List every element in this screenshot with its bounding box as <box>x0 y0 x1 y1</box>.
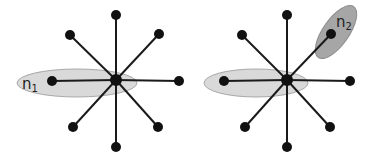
edge-right-3 <box>287 80 330 127</box>
leaf-node-left-2 <box>174 76 184 86</box>
leaf-node-left-5 <box>68 122 78 132</box>
leaf-node-right-4 <box>282 142 292 152</box>
leaf-node-right-3 <box>325 122 335 132</box>
leaf-node-left-1 <box>154 29 164 39</box>
hub-node-left <box>110 74 122 86</box>
graph-edges <box>52 15 350 147</box>
edge-left-1 <box>116 34 159 80</box>
leaf-node-left-0 <box>111 10 121 20</box>
leaf-node-left-6 <box>47 76 57 86</box>
leaf-node-right-1 <box>326 29 336 39</box>
highlight-ellipses <box>17 0 364 97</box>
leaf-node-right-6 <box>219 76 229 86</box>
edge-right-6 <box>224 80 287 81</box>
leaf-node-right-0 <box>282 10 292 20</box>
leaf-node-right-5 <box>240 122 250 132</box>
edge-left-6 <box>52 80 116 81</box>
leaf-node-left-4 <box>111 142 121 152</box>
star-graph-diagram: n1n2 <box>0 0 374 161</box>
hub-node-right <box>281 74 293 86</box>
edge-right-2 <box>287 80 350 81</box>
highlight-ellipse-right-1 <box>308 0 365 65</box>
edge-left-3 <box>116 80 158 127</box>
leaf-node-left-7 <box>65 30 75 40</box>
leaf-node-right-2 <box>345 76 355 86</box>
leaf-node-left-3 <box>153 122 163 132</box>
edge-left-2 <box>116 80 179 81</box>
leaf-node-right-7 <box>237 30 247 40</box>
